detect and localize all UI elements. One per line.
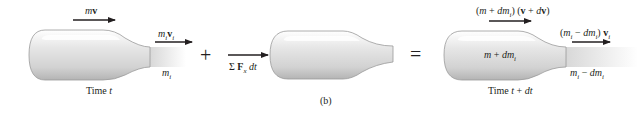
rocket-body-middle: [270, 31, 393, 79]
label-impulse: Σ Fx dt: [229, 62, 257, 75]
label-exhaust-momentum-right: (mi − dmi) vi: [560, 28, 610, 41]
plus-operator: +: [200, 44, 211, 67]
label-body-mass-right: m + dmi: [484, 50, 516, 63]
figure-caption: (b): [320, 96, 332, 106]
label-momentum-right: (m + dmi) (v + dv): [476, 6, 550, 19]
label-time-t-plus-dt: Time t + dt: [488, 86, 532, 96]
label-mi: mi: [162, 68, 171, 81]
label-time-t: Time t: [86, 86, 112, 96]
exhaust-plume-right: [566, 47, 638, 67]
label-mi-vi: mivi: [158, 29, 174, 42]
label-mv: mv: [85, 6, 97, 16]
equals-operator: =: [410, 43, 421, 66]
exhaust-plume-left: [150, 47, 186, 67]
label-exhaust-mass-right: mi − dmi: [570, 68, 604, 81]
